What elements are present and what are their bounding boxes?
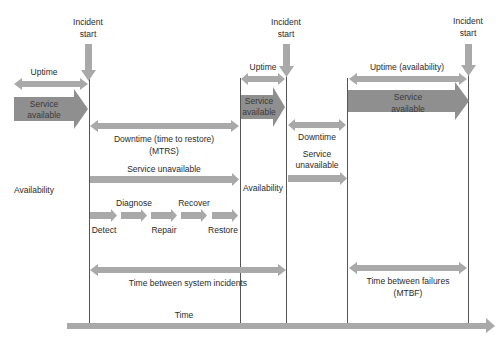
down-arrow-icon <box>81 44 96 81</box>
service-unavailable-label: Service unavailable <box>127 164 201 174</box>
phase1-service-unavailable: Service unavailable <box>90 164 239 186</box>
step-recover-label: Recover <box>178 198 210 208</box>
incident-label: Incident <box>453 16 483 26</box>
right-arrow-icon <box>288 172 347 185</box>
mtbf-span: Time between failures (MTBF) <box>349 262 467 298</box>
step-arrow-icon <box>121 209 147 222</box>
step-arrow-icon <box>212 209 238 222</box>
availability-timeline-diagram: Incident start Incident start Incident s… <box>0 0 504 345</box>
double-arrow-icon <box>241 73 285 85</box>
right-arrow-icon <box>14 89 88 129</box>
incident-marker-1: Incident start <box>73 17 103 81</box>
availability-label: Availability <box>14 185 55 195</box>
double-arrow-icon <box>90 264 286 276</box>
double-arrow-icon <box>349 262 467 274</box>
phase2-service-unavailable: Service unavailable <box>288 149 347 185</box>
phase2-downtime: Downtime <box>288 119 346 142</box>
incident-label: Incident <box>73 17 103 27</box>
step-arrow-icon <box>181 209 207 222</box>
phase1-uptime: Uptime <box>14 67 88 90</box>
incident-marker-3: Incident start <box>453 16 483 76</box>
incident-label: Incident <box>271 17 301 27</box>
step-restore-label: Restore <box>208 225 238 235</box>
uptime-label: Uptime (availability) <box>370 62 444 72</box>
service-unavailable-label: Service <box>303 149 332 159</box>
downtime-label: Downtime (time to restore) <box>114 134 214 144</box>
step-repair-label: Repair <box>151 225 176 235</box>
down-arrow-icon <box>461 44 476 76</box>
uptime-label: Uptime <box>250 62 277 72</box>
service-available-label: available <box>27 110 61 120</box>
double-arrow-icon <box>288 119 346 131</box>
step-diagnose-label: Diagnose <box>116 198 152 208</box>
time-axis-label: Time <box>175 310 194 320</box>
phase2-service-available: Service available <box>241 87 285 127</box>
double-arrow-icon <box>90 120 239 132</box>
down-arrow-icon <box>279 44 294 77</box>
service-available-label: available <box>391 104 425 114</box>
time-axis: Time <box>67 310 495 333</box>
mtbf-label: (MTBF) <box>394 288 423 298</box>
service-available-label: available <box>242 107 276 117</box>
service-unavailable-label: unavailable <box>295 160 338 170</box>
phase1-downtime: Downtime (time to restore) (MTRS) <box>90 120 239 156</box>
phase3-uptime: Uptime (availability) <box>349 62 467 85</box>
phase3-service-available: Service available <box>348 82 469 120</box>
phase1-service-available: Service available <box>14 89 88 129</box>
incident-label: start <box>278 29 295 39</box>
service-available-label: Service <box>394 92 423 102</box>
time-between-incidents-label: Time between system incidents <box>129 278 247 288</box>
service-available-label: Service <box>245 96 274 106</box>
service-available-label: Service <box>30 99 59 109</box>
availability-label: Availability <box>243 183 284 193</box>
double-arrow-icon <box>349 73 467 85</box>
uptime-label: Uptime <box>31 67 58 77</box>
downtime-label: Downtime <box>298 132 336 142</box>
double-arrow-icon <box>14 78 88 90</box>
step-detect-label: Detect <box>92 225 117 235</box>
mtbf-label: Time between failures <box>367 276 450 286</box>
incident-label: start <box>460 28 477 38</box>
step-arrow-icon <box>90 209 117 222</box>
incident-label: start <box>80 29 97 39</box>
phase1-steps: Diagnose Recover Detect Repair Restore <box>90 198 238 235</box>
phase2-uptime: Uptime <box>241 62 285 85</box>
right-arrow-icon <box>90 173 239 186</box>
time-between-incidents-span: Time between system incidents <box>90 264 286 288</box>
time-arrow-icon <box>67 318 495 333</box>
mtrs-label: (MTRS) <box>149 146 179 156</box>
step-arrow-icon <box>151 209 177 222</box>
